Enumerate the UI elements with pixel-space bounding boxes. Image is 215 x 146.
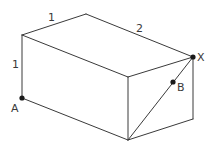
point-b-dot bbox=[170, 79, 175, 84]
edge-bottom-right-width bbox=[128, 119, 193, 140]
point-x-dot bbox=[190, 54, 195, 59]
label-point-x: X bbox=[197, 51, 205, 64]
point-a-dot bbox=[19, 95, 24, 100]
edge-top-right-width bbox=[128, 57, 193, 77]
diagonal-right-face bbox=[128, 57, 193, 140]
edge-top-front-length bbox=[22, 35, 128, 77]
label-top-length: 2 bbox=[136, 22, 143, 35]
label-point-a: A bbox=[11, 102, 19, 115]
edge-top-back-length bbox=[86, 14, 193, 57]
label-height: 1 bbox=[12, 58, 19, 71]
cuboid-diagram: 1 2 1 A B X bbox=[0, 0, 215, 146]
label-top-width: 1 bbox=[48, 11, 55, 24]
edge-bottom-front-length bbox=[22, 98, 128, 140]
label-point-b: B bbox=[177, 81, 185, 94]
